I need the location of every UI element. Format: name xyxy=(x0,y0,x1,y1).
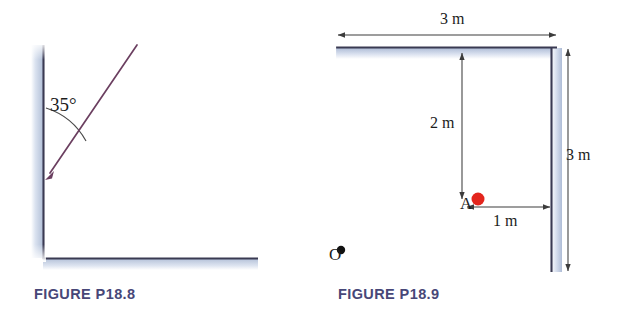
dimension-label-1m: 1 m xyxy=(493,212,517,230)
figure-p18-9: 3 m 3 m 2 m 1 m A O FIGURE P18.9 xyxy=(312,0,624,317)
figure-p18-8: 35° FIGURE P18.8 xyxy=(0,0,312,317)
angle-label: 35° xyxy=(50,94,77,116)
figure-p18-8-drawing xyxy=(0,0,312,317)
top-wall-fade xyxy=(334,44,374,61)
figure-caption-p18-8: FIGURE P18.8 xyxy=(34,286,136,302)
point-o-label: O xyxy=(329,245,341,265)
dimension-label-right-3m: 3 m xyxy=(566,146,590,164)
horizontal-wall-shading xyxy=(43,259,258,270)
point-a-label: A xyxy=(460,194,472,214)
dimension-label-2m: 2 m xyxy=(430,114,454,132)
vertical-wall-fade xyxy=(29,42,46,262)
right-wall-fade xyxy=(548,230,565,276)
figure-caption-p18-9: FIGURE P18.9 xyxy=(338,286,440,302)
figure-page: 35° FIGURE P18.8 xyxy=(0,0,624,317)
source-point-a-dot xyxy=(472,193,485,206)
dimension-label-top-3m: 3 m xyxy=(440,10,464,28)
